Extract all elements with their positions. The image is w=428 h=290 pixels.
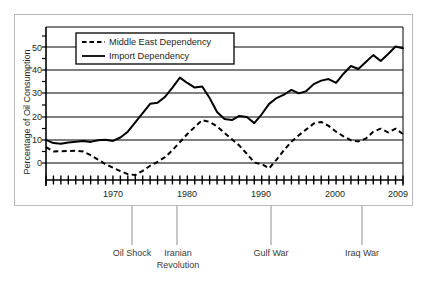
y-axis-title: Percentage of Oil Consumption (22, 49, 32, 174)
y-tick-20: 20 (32, 112, 42, 122)
y-tick-labels: 0 10 20 30 40 50 (32, 43, 42, 168)
x-tick-1970: 1970 (103, 189, 123, 199)
annotation-iraq-war: Iraq War (329, 248, 395, 260)
oil-dependency-figure: Percentage of Oil Consumption 0 10 20 30… (0, 0, 428, 290)
y-tick-30: 30 (32, 88, 42, 98)
x-tick-1980: 1980 (177, 189, 197, 199)
annotation-gulf-war-label: Gulf War (253, 248, 288, 258)
annotation-gulf-war: Gulf War (237, 248, 305, 260)
y-tick-10: 10 (32, 135, 42, 145)
x-tick-labels: 1970 1980 1990 2000 2009 (103, 189, 408, 199)
y-tick-50: 50 (32, 43, 42, 53)
annotation-iranian-revolution: Iranian Revolution (147, 248, 209, 271)
chart-legend: Middle East Dependency Import Dependency (76, 33, 234, 64)
annotation-leader-lines (132, 206, 362, 245)
x-tick-2009: 2009 (388, 189, 408, 199)
y-tick-0: 0 (37, 158, 42, 168)
legend-label-middle-east: Middle East Dependency (109, 37, 212, 47)
annotation-oil-shock-label: Oil Shock (113, 248, 152, 258)
annotation-iranian-revolution-label-line1: Iranian (164, 248, 192, 258)
series-line-middle-east-dependency (46, 120, 403, 175)
line-chart-plot: Percentage of Oil Consumption 0 10 20 30… (0, 0, 428, 290)
annotation-iraq-war-label: Iraq War (345, 248, 379, 258)
x-tick-1990: 1990 (251, 189, 271, 199)
y-tick-40: 40 (32, 65, 42, 75)
x-tick-2000: 2000 (325, 189, 345, 199)
annotation-iranian-revolution-label-line2: Revolution (157, 260, 200, 270)
legend-label-import: Import Dependency (109, 51, 190, 61)
